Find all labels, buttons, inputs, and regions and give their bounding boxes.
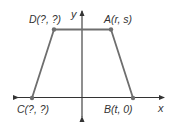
trapezoid-diagram: D(?, ?) A(r, s) C(?, ?) B(t, 0) y x [0, 0, 175, 127]
label-a: A(r, s) [103, 13, 132, 25]
vertex-c [30, 96, 34, 100]
vertex-b [131, 96, 135, 100]
label-c: C(?, ?) [17, 103, 49, 115]
label-b: B(t, 0) [104, 103, 133, 115]
vertex-a [109, 27, 113, 31]
y-axis-label: y [70, 8, 78, 20]
label-d: D(?, ?) [29, 13, 61, 25]
vertex-d [52, 27, 56, 31]
x-axis-label: x [157, 102, 164, 114]
